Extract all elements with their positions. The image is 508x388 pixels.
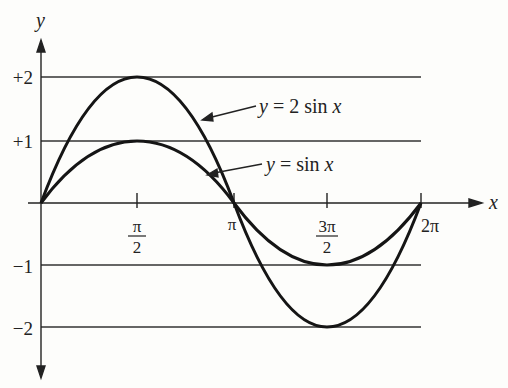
xtick-pi: π: [228, 215, 237, 234]
gridlines: [41, 77, 421, 327]
ann-x: x: [324, 153, 334, 175]
xtick-three-pi-half-den: 2: [323, 238, 332, 257]
pointer-2sinx: [208, 106, 256, 118]
x-axis-arrow-icon: [469, 199, 482, 207]
xtick-pi-half-den: 2: [133, 238, 142, 257]
ann-rest: = sin: [275, 153, 325, 175]
ann-x: x: [332, 95, 342, 117]
ann-y: y: [257, 95, 268, 118]
sine-chart: y x +2 +1 −1 −2 π 2 π 3π 2 2π y = 2 sin …: [0, 0, 508, 388]
curve-2sinx: [41, 77, 421, 327]
ytick-plus-2: +2: [13, 67, 33, 88]
xtick-three-pi-half-num: 3π: [318, 217, 336, 236]
ytick-plus-1: +1: [13, 131, 33, 152]
y-axis-label: y: [34, 9, 45, 32]
ytick-minus-2: −2: [13, 318, 33, 339]
pointer-2sinx-arrowhead-icon: [202, 113, 213, 121]
ann-y: y: [264, 153, 275, 176]
annotation-sinx: y = sin x: [264, 153, 334, 176]
y-axis-arrow-down-icon: [37, 366, 45, 378]
y-axis-arrow-up-icon: [37, 40, 45, 52]
xtick-pi-half: π 2: [128, 217, 146, 257]
ytick-minus-1: −1: [13, 256, 33, 277]
ann-rest: = 2 sin: [268, 95, 333, 117]
x-axis-label: x: [488, 191, 498, 213]
xtick-pi-half-num: π: [133, 217, 142, 236]
xtick-two-pi: 2π: [421, 216, 439, 236]
xtick-three-pi-half: 3π 2: [316, 217, 338, 257]
annotation-2sinx: y = 2 sin x: [257, 95, 342, 118]
